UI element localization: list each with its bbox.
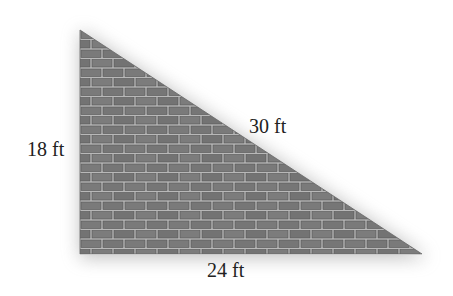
hypotenuse-label: 30 ft <box>249 116 286 136</box>
brick-triangle-diagram <box>0 0 453 296</box>
height-label: 18 ft <box>27 139 64 159</box>
base-label: 24 ft <box>207 260 244 280</box>
